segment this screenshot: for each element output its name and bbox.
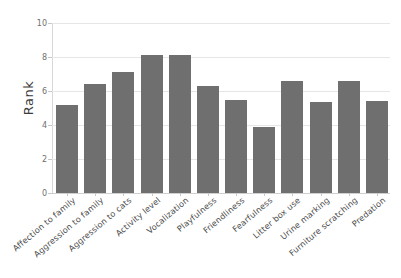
x-tick-mark: [349, 193, 350, 196]
y-tick-label: 4: [25, 121, 47, 130]
bar: [338, 81, 360, 193]
x-tick-mark: [264, 193, 265, 196]
x-axis-baseline: [52, 193, 390, 194]
bar: [366, 101, 388, 193]
x-tick-mark: [67, 193, 68, 196]
bar: [169, 55, 191, 193]
bar: [141, 55, 163, 193]
bar: [253, 127, 275, 193]
y-tick-label: 8: [25, 53, 47, 62]
y-tick-label: 2: [25, 155, 47, 164]
bar: [197, 86, 219, 193]
x-tick-mark: [236, 193, 237, 196]
x-tick-mark: [95, 193, 96, 196]
x-tick-mark: [321, 193, 322, 196]
bar: [84, 84, 106, 193]
bar: [112, 72, 134, 193]
x-tick-mark: [208, 193, 209, 196]
bar: [281, 81, 303, 193]
x-axis-labels: Affection to familyAggression to familyA…: [52, 195, 401, 278]
y-tick-mark: [48, 193, 52, 194]
bar: [225, 100, 247, 194]
x-tick-mark: [377, 193, 378, 196]
bar: [56, 105, 78, 193]
plot-area: [52, 23, 390, 193]
y-tick-label: 0: [25, 189, 47, 198]
gridline: [52, 57, 390, 58]
y-tick-label: 6: [25, 87, 47, 96]
y-tick-label: 10: [25, 19, 47, 28]
x-tick-mark: [152, 193, 153, 196]
bar: [310, 102, 332, 193]
bar-chart: Rank 0246810 Affection to familyAggressi…: [0, 0, 401, 278]
gridline: [52, 23, 390, 24]
x-tick-mark: [180, 193, 181, 196]
